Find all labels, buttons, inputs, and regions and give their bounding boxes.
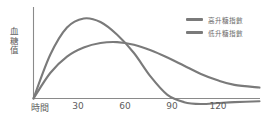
x-axis-tick-90: 90 xyxy=(166,101,177,111)
legend-label-low-gi: 低升糖指數 xyxy=(208,28,243,38)
x-axis-tick-60: 60 xyxy=(119,101,130,111)
legend-swatch-low-gi xyxy=(186,31,203,33)
x-axis-tick-time: 時間 xyxy=(31,101,49,114)
chart-legend: 高升糖指數 低升糖指數 xyxy=(186,14,264,40)
legend-swatch-high-gi xyxy=(186,18,203,20)
legend-label-high-gi: 高升糖指數 xyxy=(208,15,243,25)
x-axis-tick-120: 120 xyxy=(209,101,226,111)
legend-item-high-gi: 高升糖指數 xyxy=(186,14,264,25)
legend-item-low-gi: 低升糖指數 xyxy=(186,27,264,38)
blood-glucose-chart: 血 糖 值 時間 30 60 90 120 高升糖指數 低升糖指數 xyxy=(0,0,265,132)
y-axis-label: 血 糖 值 xyxy=(6,27,22,56)
x-axis-tick-30: 30 xyxy=(72,101,83,111)
